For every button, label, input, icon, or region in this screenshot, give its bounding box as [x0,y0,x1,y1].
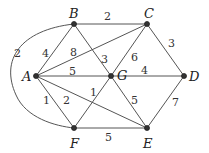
label-E: E [142,136,153,151]
edge-G-E [111,76,147,128]
weight-C-G: 6 [131,51,138,64]
node-D [182,74,187,79]
weight-F-E: 5 [105,131,112,144]
edge-B-G [74,24,111,76]
weighted-graph: 2 3 4 8 3 6 5 4 1 2 1 5 7 5 2 A B C D E … [0,0,209,153]
weight-A-B: 4 [42,47,49,60]
label-C: C [144,6,154,21]
edge-C-D [147,24,184,76]
node-A [34,74,39,79]
edge-A-C [36,24,147,76]
weight-F-G: 1 [90,86,97,99]
label-F: F [69,136,80,151]
weight-B-F: 2 [14,47,21,60]
weight-A-C: 8 [70,46,77,59]
label-A: A [21,69,31,84]
weight-A-G: 5 [69,65,76,78]
node-F [72,126,77,131]
weight-G-E: 5 [131,94,138,107]
weight-B-G: 3 [101,53,108,66]
label-D: D [188,69,200,84]
label-B: B [68,6,79,21]
weight-B-C: 2 [104,10,111,23]
weight-A-E: 2 [63,94,70,107]
weight-C-D: 3 [168,37,175,50]
label-G: G [117,68,127,83]
node-C [145,22,150,27]
weight-G-D: 4 [141,64,148,77]
weight-D-E: 7 [172,96,179,109]
weight-A-F: 1 [43,94,50,107]
node-G [109,74,114,79]
node-E [145,126,150,131]
edge-F-G [74,76,111,128]
node-B [72,22,77,27]
